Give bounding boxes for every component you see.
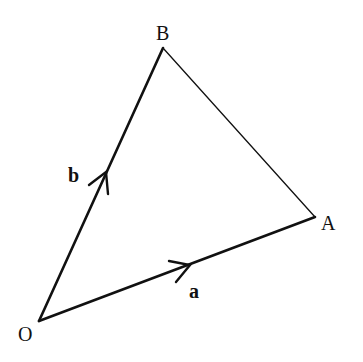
segment-ba <box>163 48 315 217</box>
vertex-label-b: B <box>156 22 169 44</box>
vector-label-a: a <box>189 280 199 302</box>
vertex-label-a: A <box>321 212 336 234</box>
vector-label-b: b <box>68 164 79 186</box>
vector-triangle-diagram: O A B b a <box>0 0 363 362</box>
vertex-label-o: O <box>18 323 32 345</box>
